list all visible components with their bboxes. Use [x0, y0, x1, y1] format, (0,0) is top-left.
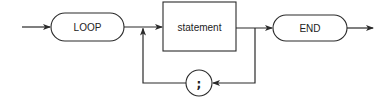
- end-terminal: END: [273, 15, 347, 41]
- end-label: END: [299, 23, 320, 34]
- statement-box: statement: [163, 2, 236, 51]
- loop-terminal: LOOP: [51, 13, 124, 41]
- separator-terminal: ;: [186, 70, 212, 96]
- syntax-diagram: LOOP statement END ;: [0, 0, 392, 106]
- statement-label: statement: [178, 22, 222, 33]
- loop-label: LOOP: [74, 22, 102, 33]
- separator-label: ;: [197, 77, 202, 91]
